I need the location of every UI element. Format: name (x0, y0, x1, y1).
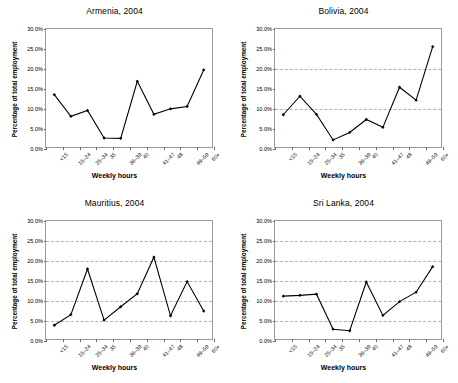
y-axis-tick-label: 0.0% (259, 146, 272, 152)
y-axis-tick-label: 30.0% (27, 26, 43, 32)
x-axis-tick-label: 15–24 (77, 343, 92, 358)
data-point-marker (169, 314, 172, 317)
data-point-marker (381, 126, 384, 129)
plot-area: 0.0%5.0%10.0%15.0%20.0%25.0%30.0% (45, 28, 213, 148)
y-axis-title-text: Percentage of total employment (12, 41, 19, 137)
y-axis-tick-label: 25.0% (27, 46, 43, 52)
x-axis-tick-label: 15–24 (306, 151, 321, 166)
x-axis-tick-label: 48 (175, 151, 183, 159)
y-axis-title-text: Percentage of total employment (12, 233, 19, 329)
x-axis-tick-label: 41–47 (161, 343, 176, 358)
x-axis-tick-label: 40 (371, 151, 379, 159)
y-axis-tick-label: 15.0% (27, 278, 43, 284)
x-axis-tick-label: <15 (59, 343, 70, 354)
data-series (46, 221, 212, 339)
chart-panel-armenia: Armenia, 2004 Percentage of total employ… (0, 0, 229, 191)
chart-panel-bolivia: Bolivia, 2004 Percentage of total employ… (229, 0, 458, 191)
x-axis-tick-label: <15 (288, 343, 299, 354)
y-axis-tick-label: 0.0% (30, 146, 43, 152)
chart-title: Armenia, 2004 (0, 6, 229, 16)
data-point-marker (282, 294, 285, 297)
plot-frame: 0.0%5.0%10.0%15.0%20.0%25.0%30.0% (45, 220, 213, 340)
x-axis-tick-label: 15–24 (306, 343, 321, 358)
y-axis-tick-label: 5.0% (30, 126, 43, 132)
data-point-marker (169, 107, 172, 110)
data-point-marker (315, 292, 318, 295)
x-axis-tick-label: <15 (59, 151, 70, 162)
x-axis-tick-label: 41–47 (390, 343, 405, 358)
data-series (275, 29, 441, 147)
y-axis-tick-label: 5.0% (259, 126, 272, 132)
chart-title: Sri Lanka, 2004 (229, 198, 458, 208)
x-axis-tick-label: 36–39 (357, 343, 372, 358)
data-point-marker (119, 137, 122, 140)
y-axis-tick-label: 25.0% (256, 46, 272, 52)
x-axis-tick-mark (443, 339, 444, 342)
series-line (283, 47, 432, 140)
chart-panel-mauritius: Mauritius, 2004 Percentage of total empl… (0, 192, 229, 383)
x-axis-tick-mark (214, 339, 215, 342)
y-axis-tick-label: 10.0% (256, 106, 272, 112)
x-axis-tick-label: 40 (371, 343, 379, 351)
data-point-marker (331, 327, 334, 330)
y-axis-tick-label: 20.0% (27, 66, 43, 72)
y-axis-tick-label: 15.0% (27, 86, 43, 92)
y-axis-tick-label: 20.0% (27, 258, 43, 264)
y-axis-title: Percentage of total employment (9, 222, 21, 340)
y-axis-tick-label: 25.0% (27, 238, 43, 244)
y-axis-tick-label: 10.0% (27, 298, 43, 304)
y-axis-tick-label: 20.0% (256, 66, 272, 72)
x-axis-tick-label: 60+ (210, 343, 221, 354)
y-axis-tick-label: 15.0% (256, 278, 272, 284)
x-axis-tick-label: <15 (288, 151, 299, 162)
data-series (275, 221, 441, 339)
series-line (54, 70, 203, 138)
x-axis-tick-label: 36–39 (128, 343, 143, 358)
plot-area: 0.0%5.0%10.0%15.0%20.0%25.0%30.0% (274, 28, 442, 148)
y-axis-tick-label: 25.0% (256, 238, 272, 244)
x-axis-tick-label: 35 (337, 151, 345, 159)
plot-frame: 0.0%5.0%10.0%15.0%20.0%25.0%30.0% (274, 28, 442, 148)
y-axis-tick-label: 10.0% (27, 106, 43, 112)
x-axis-tick-label: 35 (108, 151, 116, 159)
chart-panel-srilanka: Sri Lanka, 2004 Percentage of total empl… (229, 192, 458, 383)
chart-title: Mauritius, 2004 (0, 198, 229, 208)
x-axis-tick-label: 48 (404, 343, 412, 351)
x-axis-tick-label: 49–59 (195, 343, 210, 358)
y-axis-tick-label: 5.0% (259, 318, 272, 324)
data-point-marker (298, 294, 301, 297)
x-axis-tick-label: 40 (142, 343, 150, 351)
x-axis-tick-label: 49–59 (424, 343, 439, 358)
y-axis-tick-label: 0.0% (259, 338, 272, 344)
plot-area: 0.0%5.0%10.0%15.0%20.0%25.0%30.0% (274, 220, 442, 340)
y-axis-tick-label: 20.0% (256, 258, 272, 264)
y-axis-title-text: Percentage of total employment (241, 41, 248, 137)
chart-title: Bolivia, 2004 (229, 6, 458, 16)
y-axis-title: Percentage of total employment (238, 30, 250, 148)
y-axis-tick-label: 0.0% (30, 338, 43, 344)
x-axis-tick-label: 48 (404, 151, 412, 159)
x-axis-tick-label: 41–47 (161, 151, 176, 166)
y-axis-tick-label: 30.0% (256, 218, 272, 224)
x-axis-tick-label: 49–59 (424, 151, 439, 166)
plot-area: 0.0%5.0%10.0%15.0%20.0%25.0%30.0% (45, 220, 213, 340)
x-axis-tick-label: 48 (175, 343, 183, 351)
x-axis-tick-label: 36–39 (357, 151, 372, 166)
data-point-marker (185, 105, 188, 108)
data-series (46, 29, 212, 147)
series-line (54, 257, 203, 325)
x-axis-title: Weekly hours (229, 172, 458, 179)
y-axis-tick-label: 30.0% (256, 26, 272, 32)
y-axis-title-text: Percentage of total employment (241, 233, 248, 329)
data-point-marker (202, 68, 205, 71)
y-axis-tick-label: 15.0% (256, 86, 272, 92)
x-axis-tick-mark (214, 147, 215, 150)
x-axis-tick-label: 49–59 (195, 151, 210, 166)
x-axis-tick-label: 40 (142, 151, 150, 159)
x-axis-tick-label: 25–34 (94, 151, 109, 166)
x-axis-tick-label: 36–39 (128, 151, 143, 166)
x-axis-tick-label: 60+ (210, 151, 221, 162)
data-point-marker (86, 267, 89, 270)
x-axis-title: Weekly hours (0, 172, 229, 179)
x-axis-tick-label: 35 (337, 343, 345, 351)
